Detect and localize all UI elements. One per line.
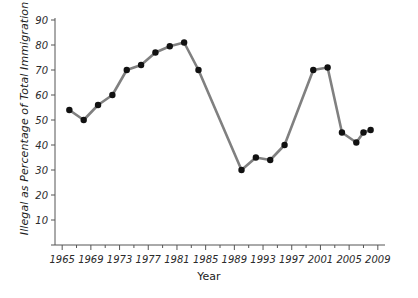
y-tick-label: 30 — [35, 165, 48, 176]
data-point — [339, 129, 345, 135]
x-tick-label: 1981 — [164, 254, 189, 265]
data-point — [310, 67, 316, 73]
y-tick-label: 20 — [35, 190, 48, 201]
x-tick-label: 1977 — [136, 254, 162, 265]
x-tick-label: 1985 — [193, 254, 218, 265]
data-point — [95, 102, 101, 108]
data-point — [367, 127, 373, 133]
y-tick-label: 70 — [35, 65, 48, 76]
data-point — [324, 64, 330, 70]
data-point — [66, 107, 72, 113]
data-point — [138, 62, 144, 68]
x-tick-label: 1993 — [250, 254, 275, 265]
data-series — [66, 39, 374, 173]
data-point — [167, 43, 173, 49]
y-tick-label: 40 — [35, 140, 48, 151]
series-line — [69, 43, 370, 171]
data-point — [238, 167, 244, 173]
x-tick-label: 1989 — [222, 254, 247, 265]
data-point — [267, 157, 273, 163]
data-point — [353, 139, 359, 145]
data-point — [109, 92, 115, 98]
y-tick-label: 60 — [35, 90, 48, 101]
x-tick-label: 1973 — [107, 254, 132, 265]
data-point — [81, 117, 87, 123]
y-tick-label: 50 — [35, 115, 48, 126]
data-point — [124, 67, 130, 73]
y-tick-label: 80 — [35, 40, 48, 51]
data-point — [195, 67, 201, 73]
data-point — [181, 39, 187, 45]
data-point — [281, 142, 287, 148]
x-axis-title: Year — [0, 270, 418, 283]
line-chart-plot: 102030405060708090 196519691973197719811… — [0, 0, 418, 298]
x-axis: 1965196919731977198119851989199319972001… — [49, 245, 390, 265]
x-tick-label: 2005 — [336, 254, 361, 265]
data-point — [253, 154, 259, 160]
x-tick-label: 1969 — [78, 254, 103, 265]
data-point — [152, 49, 158, 55]
x-tick-label: 1997 — [279, 254, 305, 265]
x-tick-label: 2009 — [365, 254, 390, 265]
chart-container: Illegal as Percentage of Total Immigrati… — [0, 0, 418, 298]
y-tick-label: 10 — [35, 215, 48, 226]
data-point — [360, 129, 366, 135]
y-axis: 102030405060708090 — [35, 15, 55, 246]
y-tick-label: 90 — [35, 15, 48, 26]
x-tick-label: 1965 — [49, 254, 74, 265]
x-tick-label: 2001 — [308, 254, 333, 265]
